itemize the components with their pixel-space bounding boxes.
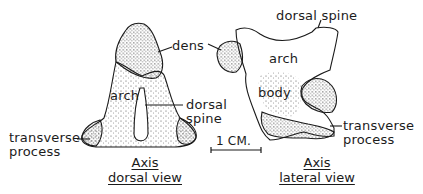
scale-bar-label: 1 CM. bbox=[216, 135, 251, 148]
label-arch-dorsal: arch bbox=[110, 89, 139, 102]
label-body-lateral: body bbox=[258, 86, 291, 99]
label-transverse-lateral-2: process bbox=[343, 133, 394, 146]
caption-dorsal-view: Axis dorsal view bbox=[100, 155, 190, 185]
label-transverse-dorsal-1: transverse bbox=[9, 131, 80, 144]
caption-lateral-title: Axis bbox=[272, 155, 362, 170]
caption-dorsal-title: Axis bbox=[100, 155, 190, 170]
caption-dorsal-subtitle: dorsal view bbox=[100, 170, 190, 185]
caption-lateral-subtitle: lateral view bbox=[272, 170, 362, 185]
caption-lateral-view: Axis lateral view bbox=[272, 155, 362, 185]
label-dorsal-spine-dorsal-1: dorsal bbox=[186, 98, 227, 111]
label-transverse-lateral-1: transverse bbox=[343, 119, 414, 132]
label-dorsal-spine-lateral: dorsal spine bbox=[276, 9, 357, 22]
lateral-view-drawing bbox=[208, 20, 342, 140]
label-dorsal-spine-dorsal-2: spine bbox=[186, 112, 222, 125]
label-transverse-dorsal-2: process bbox=[9, 145, 60, 158]
label-arch-lateral: arch bbox=[269, 52, 298, 65]
label-dens: dens bbox=[172, 39, 204, 52]
